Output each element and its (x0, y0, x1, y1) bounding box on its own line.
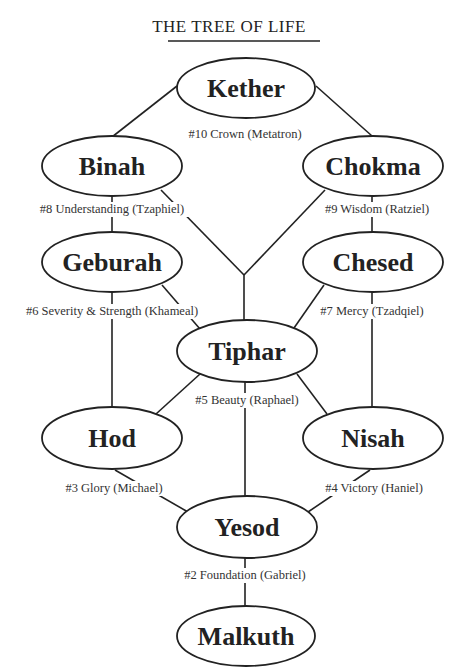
path-label-wisdom: #9 Wisdom (Ratziel) (325, 202, 429, 216)
edge-kether-binah (112, 86, 177, 137)
yesod-label: Yesod (214, 513, 280, 542)
chesed-label: Chesed (333, 248, 414, 277)
path-label-crown: #10 Crown (Metatron) (188, 127, 301, 141)
node-hod: Hod (42, 407, 182, 469)
binah-label: Binah (79, 152, 146, 181)
tiphar-label: Tiphar (208, 337, 286, 366)
hod-label: Hod (88, 424, 136, 453)
node-geburah: Geburah (42, 232, 182, 292)
path-label-mercy: #7 Mercy (Tzadqiel) (320, 304, 423, 318)
kether-label: Kether (207, 74, 285, 103)
nisah-label: Nisah (341, 424, 405, 453)
path-label-glory: #3 Glory (Michael) (65, 481, 162, 495)
node-nisah: Nisah (303, 407, 443, 469)
diagram-title: THE TREE OF LIFE (152, 17, 306, 36)
node-malkuth: Malkuth (177, 606, 315, 666)
node-chokma: Chokma (303, 136, 443, 196)
chokma-label: Chokma (325, 152, 420, 181)
tree-of-life-diagram: THE TREE OF LIFE Kether (0, 0, 457, 667)
path-label-understanding: #8 Understanding (Tzaphiel) (40, 202, 184, 216)
path-label-victory: #4 Victory (Haniel) (325, 481, 423, 495)
path-label-beauty: #5 Beauty (Raphael) (195, 393, 298, 407)
malkuth-label: Malkuth (198, 622, 295, 651)
node-kether: Kether (177, 58, 315, 118)
node-chesed: Chesed (303, 232, 443, 292)
path-label-severity: #6 Severity & Strength (Khameal) (26, 304, 198, 318)
geburah-label: Geburah (62, 248, 162, 277)
node-tiphar: Tiphar (177, 320, 317, 382)
node-yesod: Yesod (177, 496, 317, 558)
path-label-foundation: #2 Foundation (Gabriel) (184, 568, 306, 582)
node-binah: Binah (42, 136, 182, 196)
edge-kether-chokma (316, 86, 372, 136)
